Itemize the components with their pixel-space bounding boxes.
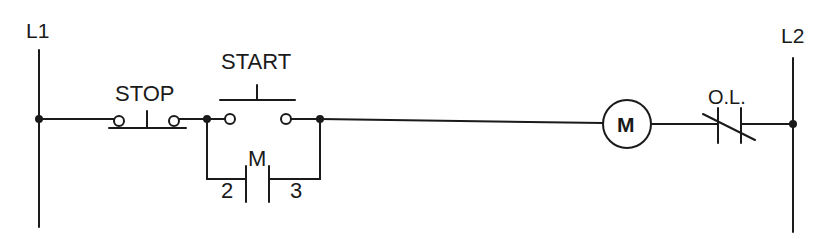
wire: [320, 119, 603, 123]
l2-label: L2: [781, 24, 804, 47]
motor-coil-label: M: [617, 113, 635, 136]
terminal-3-label: 3: [290, 178, 302, 203]
stop-label: STOP: [115, 81, 175, 106]
start-pushbutton: [220, 85, 295, 124]
l1-label: L1: [26, 19, 49, 42]
junction-dot: [35, 115, 43, 123]
stop-pushbutton: [109, 111, 186, 128]
overload-label: O.L.: [708, 86, 746, 108]
terminal-2-label: 2: [221, 178, 233, 203]
junction-dot: [789, 120, 797, 128]
junction-dot: [316, 115, 324, 123]
overload-contact: [703, 108, 755, 143]
seal-in-contact-label: M: [248, 146, 266, 171]
junction-dot: [203, 115, 211, 123]
ladder-diagram: L1 L2 STOP START M 2 3 M O.L.: [0, 0, 831, 239]
start-label: START: [221, 49, 291, 74]
